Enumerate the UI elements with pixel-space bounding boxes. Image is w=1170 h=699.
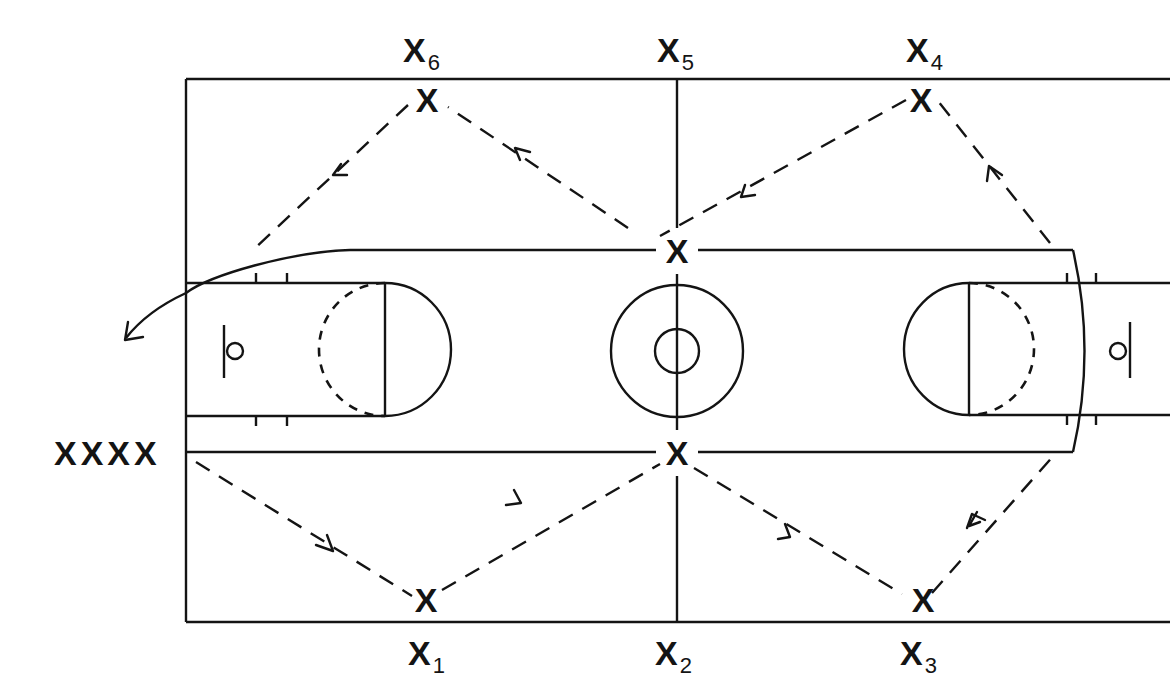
label-x5: X5: [657, 31, 694, 75]
label-x2: X2: [655, 634, 692, 678]
left-free-throw-arc-dashed: [319, 283, 385, 416]
player-x6: X: [416, 81, 439, 119]
left-hoop: [227, 343, 243, 359]
pass-line-center-to-x6: [448, 107, 628, 228]
arrowhead-icon: [515, 148, 530, 160]
right-hoop: [1110, 343, 1126, 359]
player-x1: X: [415, 581, 438, 619]
pass-line-x4-to-center: [660, 100, 906, 236]
arrowhead-icon: [506, 490, 521, 505]
label-x1: X1: [408, 634, 445, 678]
court-lines: [186, 79, 1170, 622]
exit-path: [125, 250, 350, 340]
right-free-throw-arc-dashed: [969, 283, 1034, 415]
player-x3: X: [912, 581, 935, 619]
players: X X X X X X: [415, 81, 935, 619]
player-center-top: X: [666, 232, 689, 270]
left-free-throw-arc: [385, 283, 451, 416]
position-labels: X6 X5 X4 X1 X2 X3: [403, 31, 943, 678]
player-x4: X: [910, 81, 933, 119]
label-x4: X4: [906, 31, 943, 75]
pass-lines: [196, 100, 1055, 596]
pass-line-to-x1: [196, 462, 412, 596]
right-free-throw-arc: [904, 283, 969, 415]
label-x3: X3: [900, 634, 937, 678]
player-center-bottom: X: [666, 434, 689, 472]
pass-line-x3-to-right: [932, 454, 1055, 593]
court-diagram: X X X X X X XXXX X6 X5 X4 X1 X2 X3: [0, 0, 1170, 699]
right-band-arc: [1073, 250, 1085, 452]
pass-line-center-to-x3: [694, 468, 902, 594]
arrowhead-icon: [741, 185, 755, 197]
pass-line-x1-to-center: [442, 464, 660, 590]
curved-exit-line: [126, 250, 350, 338]
pass-line-right-to-x4: [938, 101, 1050, 243]
label-x6: X6: [403, 31, 440, 75]
waiting-line: XXXX: [54, 434, 161, 472]
pass-line-x6-to-left: [254, 105, 408, 249]
